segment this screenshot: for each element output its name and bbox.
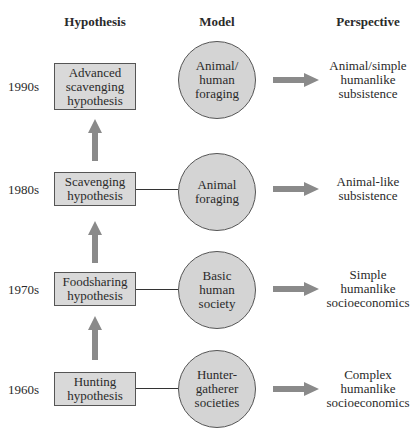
perspective-line: Simple bbox=[318, 268, 418, 282]
perspective-line: Animal/simple bbox=[318, 59, 418, 73]
hypothesis-box-scavenging: Scavenging hypothesis bbox=[54, 172, 136, 206]
model-line: foraging bbox=[195, 192, 239, 206]
hypothesis-box-foodsharing: Foodsharing hypothesis bbox=[54, 272, 136, 306]
hypothesis-line: Hunting bbox=[67, 375, 123, 389]
up-arrow-icon bbox=[88, 316, 102, 360]
model-line: human bbox=[195, 73, 239, 87]
up-arrow-icon bbox=[88, 221, 102, 263]
model-line: human bbox=[199, 283, 236, 297]
connector-line bbox=[136, 388, 178, 389]
perspective-line: subsistence bbox=[318, 189, 418, 203]
hypothesis-line: Foodsharing bbox=[63, 275, 128, 289]
connector-line bbox=[136, 189, 178, 190]
model-line: Basic bbox=[199, 269, 236, 283]
right-arrow-icon bbox=[273, 282, 319, 296]
model-line: foraging bbox=[195, 87, 239, 101]
right-arrow-icon bbox=[273, 382, 319, 396]
model-circle-animal-human-foraging: Animal/ human foraging bbox=[178, 41, 256, 119]
perspective-line: socioeconomics bbox=[318, 396, 418, 410]
model-line: society bbox=[199, 297, 236, 311]
hypothesis-line: hypothesis bbox=[65, 189, 126, 203]
perspective-line: Complex bbox=[318, 368, 418, 382]
perspective-line: subsistence bbox=[318, 87, 418, 101]
model-line: Animal bbox=[195, 178, 239, 192]
perspective-line: socioeconomics bbox=[318, 296, 418, 310]
hypothesis-line: Advanced bbox=[66, 66, 124, 80]
perspective-line: humanlike bbox=[318, 73, 418, 87]
connector-line bbox=[136, 289, 178, 290]
hypothesis-box-hunting: Hunting hypothesis bbox=[54, 372, 136, 406]
header-model: Model bbox=[180, 14, 254, 30]
perspective-text-1990s: Animal/simple humanlike subsistence bbox=[318, 59, 418, 101]
hypothesis-line: hypothesis bbox=[67, 389, 123, 403]
hypothesis-box-advanced-scavenging: Advanced scavenging hypothesis bbox=[54, 63, 136, 110]
perspective-text-1970s: Simple humanlike socioeconomics bbox=[318, 268, 418, 310]
model-line: gatherer bbox=[195, 382, 240, 396]
perspective-line: humanlike bbox=[318, 382, 418, 396]
perspective-text-1980s: Animal-like subsistence bbox=[318, 175, 418, 203]
hypothesis-line: scavenging bbox=[66, 80, 124, 94]
up-arrow-icon bbox=[88, 119, 102, 161]
model-circle-basic-human-society: Basic human society bbox=[178, 251, 256, 329]
model-circle-animal-foraging: Animal foraging bbox=[178, 153, 256, 231]
hypothesis-line: hypothesis bbox=[66, 94, 124, 108]
decade-label-1960s: 1960s bbox=[8, 382, 48, 398]
decade-label-1990s: 1990s bbox=[8, 79, 48, 95]
perspective-line: Animal-like bbox=[318, 175, 418, 189]
decade-label-1980s: 1980s bbox=[8, 182, 48, 198]
model-line: Hunter- bbox=[195, 368, 240, 382]
perspective-line: humanlike bbox=[318, 282, 418, 296]
hypothesis-line: Scavenging bbox=[65, 175, 126, 189]
model-line: societies bbox=[195, 396, 240, 410]
hypothesis-line: hypothesis bbox=[63, 289, 128, 303]
perspective-text-1960s: Complex humanlike socioeconomics bbox=[318, 368, 418, 410]
right-arrow-icon bbox=[273, 182, 319, 196]
decade-label-1970s: 1970s bbox=[8, 282, 48, 298]
header-perspective: Perspective bbox=[318, 14, 418, 30]
model-line: Animal/ bbox=[195, 59, 239, 73]
model-circle-hunter-gatherer-societies: Hunter- gatherer societies bbox=[178, 350, 256, 428]
header-hypothesis: Hypothesis bbox=[50, 14, 140, 30]
right-arrow-icon bbox=[273, 73, 319, 87]
